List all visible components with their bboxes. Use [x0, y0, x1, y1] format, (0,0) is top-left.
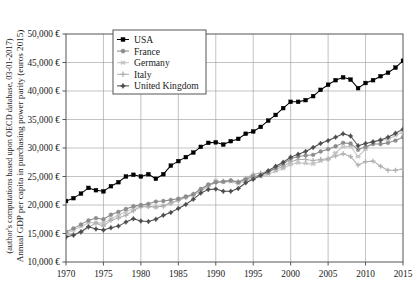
y-tick-label: 45,000 € [27, 58, 60, 68]
x-tick-label: 2015 [394, 269, 413, 279]
chart-canvas: 10,000 €15,000 €20,000 €25,000 €30,000 €… [0, 0, 420, 292]
y-tick-label: 30,000 € [27, 143, 60, 153]
y-tick-label: 40,000 € [27, 86, 60, 96]
y-tick-label: 20,000 € [27, 200, 60, 210]
legend-label: Germany [134, 57, 170, 68]
legend-label: United Kingdom [134, 80, 199, 91]
chart-legend: USAFranceGermanyItalyUnited Kingdom [113, 30, 206, 94]
series-italy [64, 151, 406, 237]
x-tick-label: 1995 [244, 269, 263, 279]
y-axis-ticks: 10,000 €15,000 €20,000 €25,000 €30,000 €… [27, 29, 66, 267]
x-tick-label: 1975 [94, 269, 113, 279]
legend-label: France [134, 46, 160, 57]
x-tick-label: 1990 [206, 269, 225, 279]
legend-label: USA [134, 34, 153, 45]
gdp-per-capita-line-chart: Annual GDP per capita in purchasing powe… [0, 0, 420, 292]
x-tick-label: 1985 [169, 269, 188, 279]
x-tick-label: 2010 [356, 269, 375, 279]
y-tick-label: 10,000 € [27, 257, 60, 267]
y-tick-label: 35,000 € [27, 115, 60, 125]
x-tick-label: 2000 [281, 269, 300, 279]
y-tick-label: 15,000 € [27, 229, 60, 239]
x-tick-label: 1980 [132, 269, 151, 279]
x-axis-ticks: 1970197519801985199019952000200520102015 [57, 262, 413, 279]
x-tick-label: 1970 [57, 269, 76, 279]
y-tick-label: 50,000 € [27, 29, 60, 39]
legend-label: Italy [134, 69, 152, 80]
x-tick-label: 2005 [319, 269, 338, 279]
y-tick-label: 25,000 € [27, 172, 60, 182]
